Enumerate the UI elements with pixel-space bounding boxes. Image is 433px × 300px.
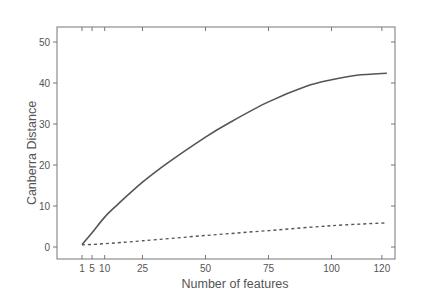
x-tick-label: 100 <box>323 263 340 274</box>
x-tick-label: 10 <box>99 263 111 274</box>
x-tick-label: 75 <box>263 263 275 274</box>
x-tick-label: 5 <box>89 263 95 274</box>
series-line-solid <box>82 73 387 244</box>
x-tick-label: 120 <box>374 263 391 274</box>
x-tick-label: 1 <box>79 263 85 274</box>
y-axis-label: Canberra Distance <box>25 101 39 205</box>
x-tick-label: 25 <box>137 263 149 274</box>
y-tick-label: 30 <box>39 119 51 130</box>
x-tick-label: 50 <box>200 263 212 274</box>
plot-frame <box>57 27 395 259</box>
y-axis-ticks: 01020304050 <box>39 37 395 253</box>
y-tick-label: 20 <box>39 160 51 171</box>
x-axis-ticks: 1510255075100120 <box>79 27 390 274</box>
data-series <box>82 73 387 245</box>
series-line-dashed <box>82 223 387 245</box>
y-tick-label: 40 <box>39 78 51 89</box>
y-tick-label: 0 <box>44 242 50 253</box>
y-tick-label: 50 <box>39 37 51 48</box>
y-tick-label: 10 <box>39 201 51 212</box>
x-axis-label: Number of features <box>182 277 289 291</box>
line-chart: 1510255075100120 01020304050 Number of f… <box>0 0 433 300</box>
